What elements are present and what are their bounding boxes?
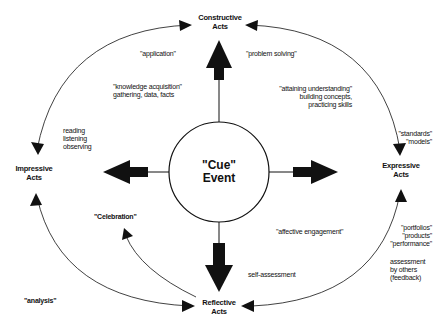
node-constructive-acts: Constructive Acts: [190, 14, 250, 31]
observing-line: observing: [63, 143, 92, 151]
reflective-line2: Acts: [194, 308, 244, 317]
node-impressive-acts: Impressive Acts: [8, 165, 60, 182]
node-reflective-acts: Reflective Acts: [194, 299, 244, 316]
arrowhead-expressive-bottom-icon: [395, 189, 407, 202]
understanding-line3: practicing skills: [276, 101, 352, 109]
arrow-right-icon: [269, 160, 338, 184]
arrowhead-impressive-top-icon: [31, 142, 44, 155]
arrow-left-icon: [103, 160, 169, 184]
label-attaining-understanding: "attaining understanding" building conce…: [276, 85, 352, 109]
standards-line: "standards": [386, 130, 432, 138]
arc-reflective-to-expressive: [252, 193, 400, 306]
node-expressive-acts: Expressive Acts: [375, 162, 427, 179]
cue-event-label: "Cue" Event: [189, 159, 249, 185]
label-analysis: "analysis": [24, 297, 56, 305]
cue-event-line2: Event: [189, 172, 249, 185]
label-celebration: "Celebration": [94, 213, 137, 221]
expressive-line2: Acts: [375, 171, 427, 180]
label-standards-models: "standards" "models": [386, 130, 432, 146]
label-portfolios-products-performance: "portfolios" "products" "performance": [386, 224, 432, 248]
label-application: "application": [140, 50, 176, 58]
impressive-line2: Acts: [8, 174, 60, 183]
products-line: "products": [386, 232, 432, 240]
label-assessment-by-others: assessment by others (feedback): [390, 258, 425, 282]
arrowhead-celebration-icon: [122, 228, 133, 240]
label-affective-engagement: "affective engagement": [276, 228, 343, 236]
arrow-up-icon: [206, 40, 232, 122]
assessment-line: assessment: [390, 258, 425, 266]
feedback-line: (feedback): [390, 274, 425, 282]
performance-line: "performance": [386, 240, 432, 248]
knowledge-line2: gathering, data, facts: [113, 91, 182, 99]
arrowhead-impressive-bottom-icon: [30, 193, 42, 206]
reading-line: reading: [63, 127, 92, 135]
arrow-down-icon: [205, 222, 233, 292]
by-others-line: by others: [390, 266, 425, 274]
understanding-line1: "attaining understanding": [276, 85, 352, 93]
constructive-line2: Acts: [190, 23, 250, 32]
label-problem-solving: "problem solving": [246, 50, 297, 58]
listening-line: listening: [63, 135, 92, 143]
understanding-line2: building concepts,: [276, 93, 352, 101]
label-knowledge-acquisition: "knowledge acquisition" gathering, data,…: [113, 83, 182, 99]
label-reading-listening-observing: reading listening observing: [63, 127, 92, 151]
models-line: "models": [386, 138, 432, 146]
knowledge-line1: "knowledge acquisition": [113, 83, 182, 91]
arc-reflective-to-celebration: [126, 236, 196, 297]
label-self-assessment: self-assessment: [248, 271, 296, 279]
portfolios-line: "portfolios": [386, 224, 432, 232]
